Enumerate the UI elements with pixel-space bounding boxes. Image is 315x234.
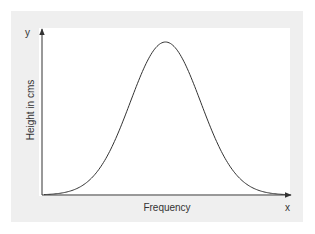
bell-curve xyxy=(44,42,287,195)
y-axis-label: Height in cms xyxy=(26,80,36,141)
x-axis-letter: x xyxy=(285,203,290,213)
x-axis-label: Frequency xyxy=(143,203,190,213)
y-axis-letter: y xyxy=(25,28,30,38)
chart-svg xyxy=(0,0,315,234)
